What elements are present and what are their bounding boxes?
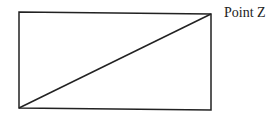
diagonal-line bbox=[19, 14, 211, 108]
point-z-label: Point Z bbox=[224, 5, 266, 21]
